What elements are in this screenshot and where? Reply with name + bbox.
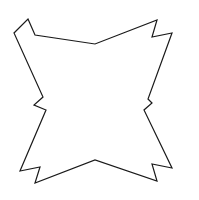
drawing-canvas — [0, 0, 199, 200]
shape-svg-canvas — [0, 0, 199, 200]
four-pointed-barbed-star-shape — [14, 19, 172, 183]
